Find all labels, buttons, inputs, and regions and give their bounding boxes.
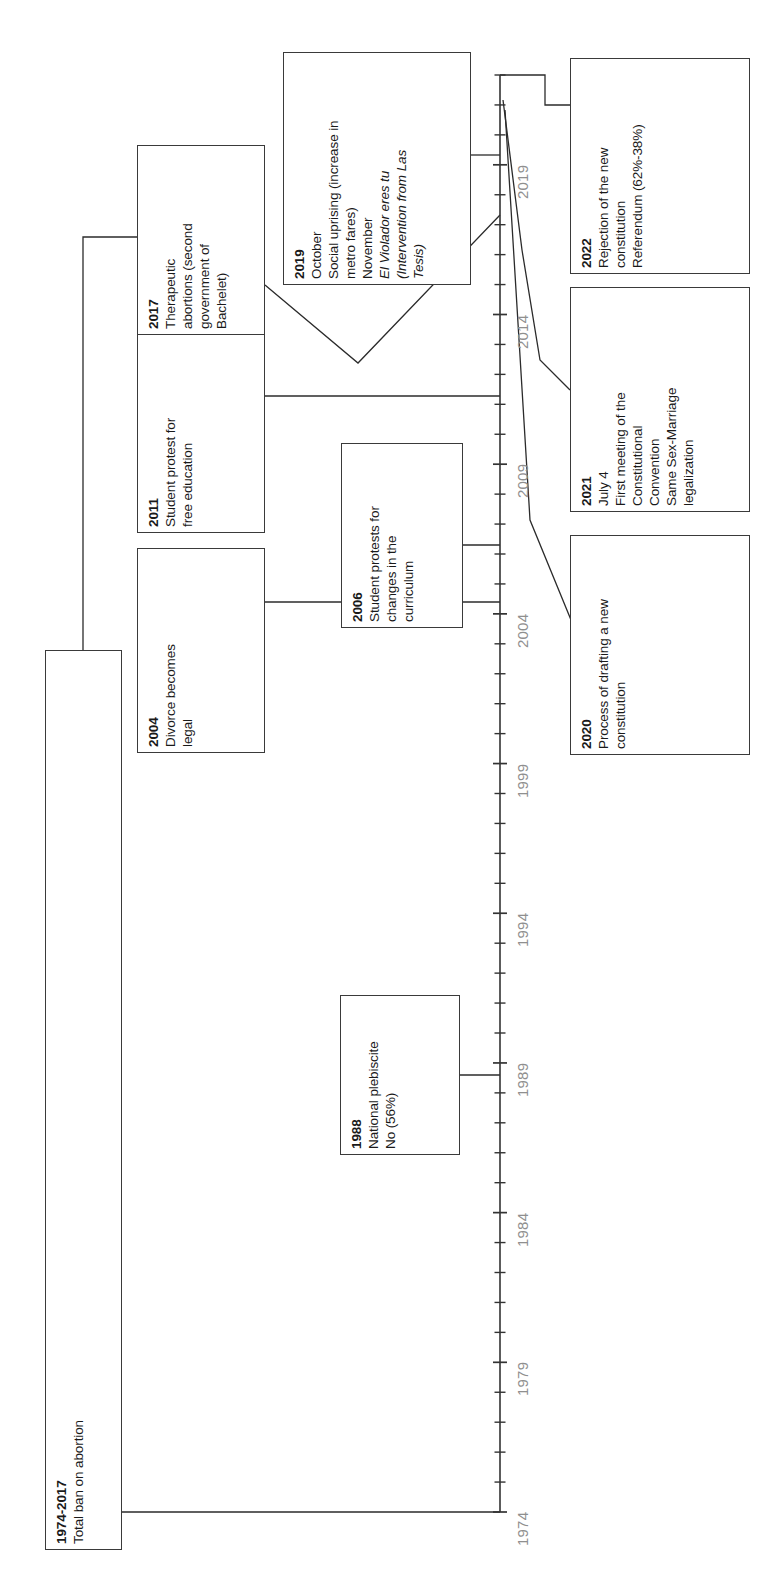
event-2021-constitutional-convention-line-2: Constitutional (629, 388, 646, 506)
event-2022-referendum-line-0: Rejection of the new (595, 124, 612, 268)
event-1974-2017-abortion-ban: 1974-2017Total ban on abortion (45, 650, 122, 1550)
event-2019-social-uprising-line-1: Social uprising (increase in (325, 120, 342, 279)
event-2011-student-protest: 2011Student protest forfree education (137, 332, 265, 533)
event-1988-plebiscite-line-1: No (56%) (382, 1041, 399, 1149)
event-2017-therapeutic-abortions-line-2: government of (196, 223, 213, 329)
event-2021-constitutional-convention-line-5: legalization (680, 388, 697, 506)
event-2020-drafting-constitution-year: 2020 (578, 599, 595, 749)
event-1974-2017-abortion-ban-line-0: Total ban on abortion (70, 1420, 87, 1544)
event-1974-2017-abortion-ban-year: 1974-2017 (53, 1420, 70, 1544)
axis-tick-label-1994: 1994 (514, 913, 531, 947)
event-2019-social-uprising: 2019OctoberSocial uprising (increase inm… (283, 52, 471, 285)
event-2022-referendum: 2022Rejection of the newconstitutionRefe… (570, 58, 750, 274)
event-2019-social-uprising-line-0: October (308, 120, 325, 279)
event-1988-plebiscite-line-0: National plebiscite (365, 1041, 382, 1149)
year-axis-group (493, 75, 507, 1512)
event-2011-student-protest-line-0: Student protest for (162, 418, 179, 527)
connector-2022-to-axis (500, 75, 570, 105)
axis-tick-label-2004: 2004 (514, 614, 531, 648)
event-1974-2017-abortion-ban-text-block: 1974-2017Total ban on abortion (53, 1420, 87, 1544)
event-2019-social-uprising-text-block: 2019OctoberSocial uprising (increase inm… (291, 120, 427, 279)
event-2020-drafting-constitution-line-0: Process of drafting a new (595, 599, 612, 749)
event-2022-referendum-year: 2022 (578, 124, 595, 268)
event-1988-plebiscite: 1988National plebisciteNo (56%) (340, 995, 460, 1155)
event-2020-drafting-constitution: 2020Process of drafting a newconstitutio… (570, 535, 750, 755)
event-1988-plebiscite-text-block: 1988National plebisciteNo (56%) (348, 1041, 399, 1149)
event-2017-therapeutic-abortions-year: 2017 (145, 223, 162, 329)
event-2017-therapeutic-abortions-line-1: abortions (second (179, 223, 196, 329)
axis-tick-label-1984: 1984 (514, 1212, 531, 1246)
event-2021-constitutional-convention-line-3: Convention (646, 388, 663, 506)
event-2006-student-protests-line-0: Student protests for (366, 506, 383, 622)
event-2021-constitutional-convention: 2021July 4First meeting of theConstituti… (570, 287, 750, 512)
event-2004-divorce-line-0: Divorce becomes (162, 644, 179, 747)
axis-tick-label-1974: 1974 (514, 1512, 531, 1546)
event-2004-divorce-year: 2004 (145, 644, 162, 747)
event-2017-therapeutic-abortions-line-0: Therapeutic (162, 223, 179, 329)
axis-tick-label-1979: 1979 (514, 1362, 531, 1396)
event-2006-student-protests: 2006Student protests forchanges in thecu… (341, 443, 463, 628)
event-2020-drafting-constitution-text-block: 2020Process of drafting a newconstitutio… (578, 599, 629, 749)
event-2006-student-protests-line-1: changes in the (383, 506, 400, 622)
event-2006-student-protests-text-block: 2006Student protests forchanges in thecu… (349, 506, 417, 622)
event-2020-drafting-constitution-line-1: constitution (612, 599, 629, 749)
event-2022-referendum-line-1: constitution (612, 124, 629, 268)
event-2017-therapeutic-abortions: 2017Therapeuticabortions (secondgovernme… (137, 145, 265, 335)
connector-ban-to-axis-bottom (83, 1512, 500, 1550)
axis-tick-label-1989: 1989 (514, 1063, 531, 1097)
event-2004-divorce-text-block: 2004Divorce becomeslegal (145, 644, 196, 747)
event-2021-constitutional-convention-line-0: July 4 (595, 388, 612, 506)
axis-tick-label-1999: 1999 (514, 763, 531, 797)
event-1988-plebiscite-year: 1988 (348, 1041, 365, 1149)
event-2011-student-protest-year: 2011 (145, 418, 162, 527)
event-2019-social-uprising-line-4: El Violador eres tu (376, 120, 393, 279)
event-2019-social-uprising-line-5: (Intervention from Las (393, 120, 410, 279)
axis-tick-label-2014: 2014 (514, 314, 531, 348)
event-2011-student-protest-text-block: 2011Student protest forfree education (145, 418, 196, 527)
event-2004-divorce-line-1: legal (179, 644, 196, 747)
event-2017-therapeutic-abortions-line-3: Bachelet) (213, 223, 230, 329)
axis-tick-label-2009: 2009 (514, 464, 531, 498)
event-2021-constitutional-convention-text-block: 2021July 4First meeting of theConstituti… (578, 388, 697, 506)
event-2017-therapeutic-abortions-text-block: 2017Therapeuticabortions (secondgovernme… (145, 223, 230, 329)
event-2019-social-uprising-line-2: metro fares) (342, 120, 359, 279)
event-2011-student-protest-line-1: free education (179, 418, 196, 527)
event-2022-referendum-line-2: Referendum (62%-38%) (629, 124, 646, 268)
event-2004-divorce: 2004Divorce becomeslegal (137, 548, 265, 753)
event-2021-constitutional-convention-line-1: First meeting of the (612, 388, 629, 506)
event-2021-constitutional-convention-line-4: Same Sex-Marriage (663, 388, 680, 506)
event-2006-student-protests-year: 2006 (349, 506, 366, 622)
event-2019-social-uprising-year: 2019 (291, 120, 308, 279)
event-2022-referendum-text-block: 2022Rejection of the newconstitutionRefe… (578, 124, 646, 268)
connector-ban-to-2017 (83, 237, 137, 650)
event-2006-student-protests-line-2: curriculum (400, 506, 417, 622)
timeline-diagram: 1974-2017Total ban on abortion1988Nation… (0, 0, 775, 1576)
event-2019-social-uprising-line-6: Tesis) (410, 120, 427, 279)
event-2021-constitutional-convention-year: 2021 (578, 388, 595, 506)
axis-tick-label-2019: 2019 (514, 165, 531, 199)
event-2019-social-uprising-line-3: November (359, 120, 376, 279)
